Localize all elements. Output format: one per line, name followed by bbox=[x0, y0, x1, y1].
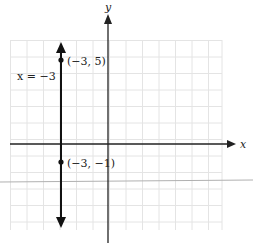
point-marker bbox=[58, 159, 63, 164]
line-equation-label: x = −3 bbox=[17, 70, 56, 83]
coordinate-plane: x y x = −3 (−3, 5) (−3, −1) bbox=[0, 0, 253, 243]
grid bbox=[10, 40, 222, 230]
y-axis-arrow-icon bbox=[104, 14, 112, 24]
line-up-arrow-icon bbox=[56, 42, 66, 53]
vertical-line-x-neg3 bbox=[56, 42, 66, 228]
point-marker bbox=[58, 57, 63, 62]
point-label: (−3, −1) bbox=[67, 157, 115, 170]
x-axis-label: x bbox=[240, 138, 247, 151]
y-axis-label: y bbox=[104, 1, 112, 14]
point-label: (−3, 5) bbox=[67, 55, 106, 68]
x-axis-arrow-icon bbox=[227, 140, 236, 148]
y-axis: y bbox=[104, 1, 112, 243]
